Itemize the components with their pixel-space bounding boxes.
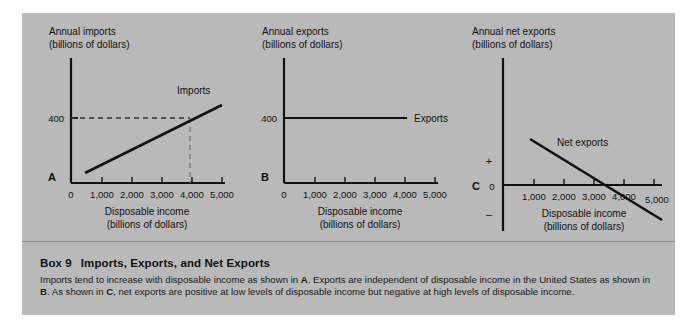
panel-a-x-tick-label-3000: 3,000	[150, 189, 174, 200]
panel-a-axis-title-line1: Annual imports	[49, 26, 116, 37]
panel-b-x-axis-units: (billions of dollars)	[320, 219, 401, 230]
panel-a-x-tick-label-2000: 2,000	[120, 189, 144, 200]
panel-b-x-tick-label-5000: 5,000	[423, 189, 447, 200]
panel-c-zero-label: 0	[489, 181, 494, 192]
panel-c-axis-title-line1: Annual net exports	[472, 26, 555, 37]
caption-ref-a: A	[301, 274, 308, 285]
chart-panel-a: Annual imports (billions of dollars) 400	[22, 13, 262, 241]
panel-c-x-tick-label-2000: 2,000	[552, 191, 576, 202]
panel-b-exports-label: Exports	[414, 113, 448, 124]
figure-root: Annual imports (billions of dollars) 400	[0, 0, 697, 328]
panel-c-axis-title-line2: (billions of dollars)	[472, 39, 553, 50]
panel-c-x-axis-title: Disposable income	[542, 208, 627, 219]
caption-block: Box 9Imports, Exports, and Net Exports I…	[40, 257, 660, 299]
charts-area: Annual imports (billions of dollars) 400	[22, 13, 675, 241]
panel-a-x-tick-label-4000: 4,000	[180, 189, 204, 200]
caption-box-number: Box 9	[40, 257, 72, 269]
panel-b-x-tick-label-0: 0	[281, 189, 286, 200]
panel-a-imports-line	[85, 105, 222, 173]
caption-body-part-4: , net exports are positive at low levels…	[113, 286, 574, 297]
panel-a-x-tick-label-0: 0	[68, 189, 73, 200]
panel-a-x-tick-label-1000: 1,000	[90, 189, 114, 200]
panel-c-x-tick-label-1000: 1,000	[522, 191, 546, 202]
panel-b-x-tick-label-4000: 4,000	[393, 189, 417, 200]
figure-gray-panel: Annual imports (billions of dollars) 400	[22, 13, 675, 315]
caption-body-part-3: . As shown in	[47, 286, 106, 297]
panel-a-x-axis-title: Disposable income	[105, 206, 190, 217]
panel-c-positive-sign-label: +	[486, 155, 492, 167]
panel-c-x-tick-label-3000: 3,000	[582, 191, 606, 202]
panel-b-x-axis-title: Disposable income	[318, 206, 403, 217]
panel-b-axis-title-line1: Annual exports	[262, 26, 329, 37]
panel-a-imports-label: Imports	[177, 85, 210, 96]
caption-body-part-2: . Exports are independent of disposable …	[308, 274, 650, 285]
caption-title: Box 9Imports, Exports, and Net Exports	[40, 257, 660, 269]
caption-divider	[22, 241, 675, 242]
panel-b-y-tick-label-400: 400	[261, 113, 277, 124]
panel-c-x-tick-label-5000: 5,000	[645, 194, 669, 205]
panel-letter-c: C	[472, 180, 480, 192]
panel-b-x-tick-label-2000: 2,000	[333, 189, 357, 200]
panel-c-net-exports-label: Net exports	[557, 137, 608, 148]
panel-c-negative-sign-label: –	[486, 208, 493, 220]
caption-ref-b: B	[40, 286, 47, 297]
panel-b-x-tick-label-3000: 3,000	[363, 189, 387, 200]
panel-letter-b: B	[261, 171, 269, 183]
caption-body-part-1: Imports tend to increase with disposable…	[40, 274, 301, 285]
panel-c-x-axis-units: (billions of dollars)	[544, 221, 625, 232]
caption-body: Imports tend to increase with disposable…	[40, 274, 660, 299]
panel-c-x-tick-label-4000: 4,000	[612, 191, 636, 202]
chart-panel-c: Annual net exports (billions of dollars)…	[445, 13, 685, 241]
panel-a-axis-title-line2: (billions of dollars)	[49, 39, 130, 50]
panel-b-axis-title-line2: (billions of dollars)	[262, 39, 343, 50]
panel-letter-a: A	[48, 171, 56, 183]
panel-a-x-axis-units: (billions of dollars)	[107, 219, 188, 230]
caption-title-text: Imports, Exports, and Net Exports	[81, 257, 270, 269]
panel-b-x-tick-label-1000: 1,000	[303, 189, 327, 200]
chart-panel-b: Annual exports (billions of dollars) 400…	[235, 13, 475, 241]
panel-a-x-tick-label-5000: 5,000	[210, 189, 234, 200]
panel-a-y-tick-label-400: 400	[48, 113, 64, 124]
